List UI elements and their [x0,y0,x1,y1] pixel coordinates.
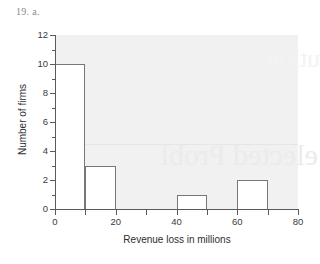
x-axis-minor-tick [207,210,208,215]
x-axis-tick [55,210,56,215]
x-axis-tick [116,210,117,215]
x-axis-tick-label: 20 [96,217,136,227]
x-axis-tick-label: 40 [157,217,197,227]
x-axis-minor-tick [146,210,147,215]
x-axis-tick-label: 80 [278,217,318,227]
x-axis-title: Revenue loss in millions [55,234,299,245]
y-axis-title: Number of firms [17,35,28,205]
x-axis-tick [298,210,299,215]
y-axis-tick-label: 6 [8,117,48,127]
histogram-bar [85,166,115,210]
y-axis-tick-label: 0 [8,204,48,214]
histogram-bar [237,180,267,209]
y-axis-line [55,35,56,210]
x-axis-tick-label: 0 [35,217,75,227]
y-axis-tick-label: 12 [8,30,48,40]
y-axis-tick-label: 8 [8,88,48,98]
y-axis-tick-label: 2 [8,175,48,185]
x-axis-tick [177,210,178,215]
histogram-figure: elected Probl ution 024681012020406080 N… [0,18,320,264]
x-axis-tick-label: 60 [217,217,257,227]
histogram-bar [177,195,207,210]
x-axis-minor-tick [85,210,86,215]
x-axis-tick [237,210,238,215]
problem-number-label: 19. a. [16,6,40,17]
y-axis-tick-label: 10 [8,59,48,69]
x-axis-line [55,209,299,210]
histogram-bar [55,64,85,209]
y-axis-tick-label: 4 [8,146,48,156]
x-axis-minor-tick [268,210,269,215]
